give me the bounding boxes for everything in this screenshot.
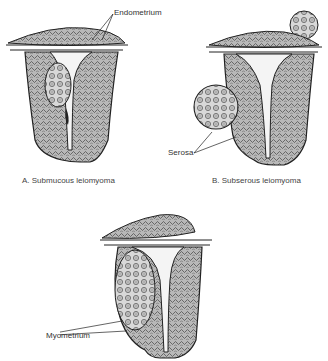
caption-panel-b: B. Subserous leiomyoma bbox=[212, 176, 301, 185]
panel-b-uterus-diagram: Serosa B. Subserous leiomyoma bbox=[164, 0, 328, 180]
leader-lines bbox=[0, 0, 164, 180]
label-myometrium: Myometrium bbox=[46, 331, 90, 340]
caption-panel-a: A. Submucous leiomyoma bbox=[22, 176, 115, 185]
panel-a-uterus-diagram: Endometrium A. Submucous leiomyoma bbox=[0, 0, 164, 180]
leader-lines bbox=[164, 0, 328, 180]
